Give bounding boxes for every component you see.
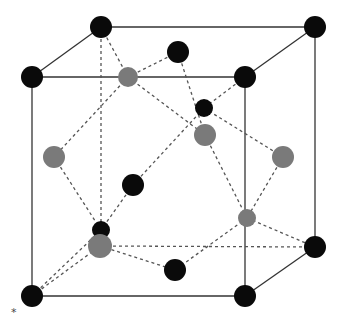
inner-atom xyxy=(164,259,186,281)
face-atom xyxy=(118,67,138,87)
face-atom xyxy=(194,124,216,146)
face-atom xyxy=(238,209,256,227)
inner-atom xyxy=(195,99,213,117)
corner-atom xyxy=(304,236,326,258)
inner-atom xyxy=(122,174,144,196)
asterisk-annotation: * xyxy=(11,306,17,319)
crystal-structure-diagram xyxy=(0,0,339,327)
cube-edges xyxy=(32,27,315,296)
corner-atom xyxy=(234,66,256,88)
bonds xyxy=(32,27,315,296)
corner-atom xyxy=(21,285,43,307)
face-atom xyxy=(272,146,294,168)
face-atom xyxy=(43,146,65,168)
corner-atom xyxy=(234,285,256,307)
corner-atom xyxy=(21,66,43,88)
corner-atom xyxy=(90,16,112,38)
inner-atom xyxy=(167,41,189,63)
corner-atom xyxy=(304,16,326,38)
atoms xyxy=(21,16,326,307)
face-atom xyxy=(88,234,112,258)
